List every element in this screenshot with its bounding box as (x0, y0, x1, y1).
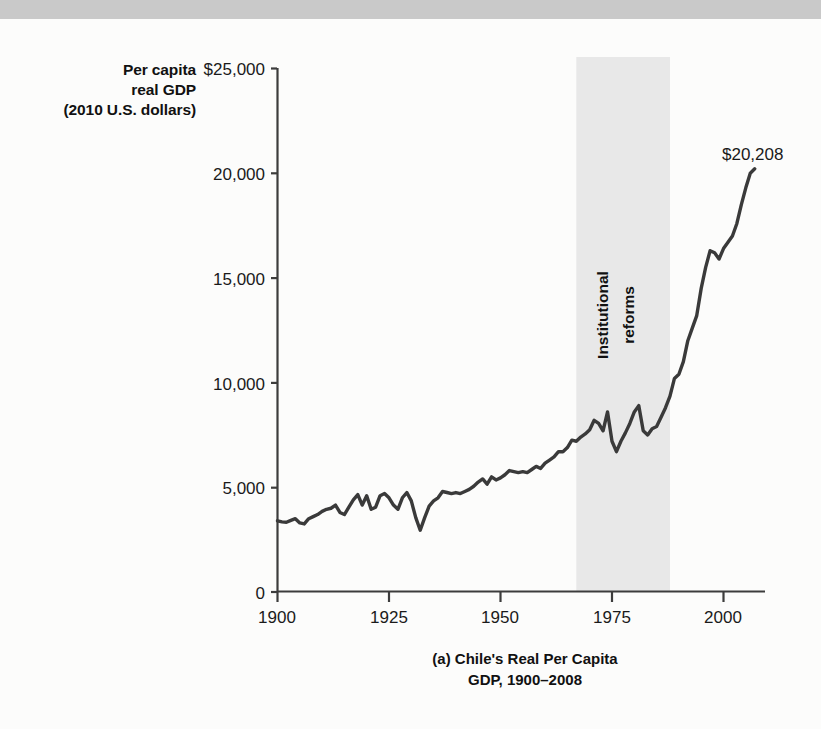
x-tick-label-2000: 2000 (704, 608, 742, 627)
y-tick-label-25000: $25,000 (204, 60, 265, 79)
shaded-region-label-line-2: reforms (620, 286, 637, 344)
y-tick-label-0: 0 (256, 584, 265, 603)
line-chart: $25,000 20,000 15,000 10,000 5,000 0 190… (0, 0, 821, 729)
y-tick-label-5000: 5,000 (222, 479, 265, 498)
x-tick-label-1900: 1900 (258, 608, 296, 627)
gdp-data-line (278, 169, 755, 530)
figure-caption-line-2: GDP, 1900–2008 (330, 669, 720, 690)
x-tick-label-1925: 1925 (370, 608, 408, 627)
x-tick-label-1975: 1975 (593, 608, 631, 627)
y-tick-label-10000: 10,000 (213, 375, 265, 394)
y-tick-label-20000: 20,000 (213, 165, 265, 184)
figure-caption: (a) Chile's Real Per Capita GDP, 1900–20… (330, 648, 720, 690)
end-value-label: $20,208 (722, 145, 783, 164)
shaded-region-label-line-1: Institutional (594, 271, 611, 359)
figure-caption-line-1: (a) Chile's Real Per Capita (330, 648, 720, 669)
x-axis-ticks (278, 592, 724, 602)
y-axis-ticks (271, 69, 277, 593)
figure-root: Per capita real GDP (2010 U.S. dollars) … (0, 0, 821, 729)
y-tick-label-15000: 15,000 (213, 270, 265, 289)
x-tick-label-1950: 1950 (481, 608, 519, 627)
